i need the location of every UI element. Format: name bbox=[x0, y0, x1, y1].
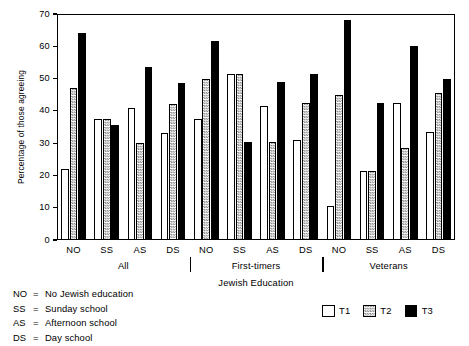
bar-t2-no-8 bbox=[335, 95, 343, 240]
x-axis-category-labels: NOSSASDSNOSSASDSNOSSASDS bbox=[57, 243, 455, 257]
footnote-code: DS bbox=[13, 331, 33, 346]
footnote-row: SS=Sunday school bbox=[13, 302, 223, 317]
y-axis-tick-label: 50 bbox=[39, 72, 49, 85]
y-axis-tick-label: 10 bbox=[39, 201, 49, 214]
bar-t2-ss-5 bbox=[236, 74, 244, 240]
legend-swatch-t1 bbox=[322, 305, 335, 318]
legend-item-t3: T3 bbox=[405, 304, 433, 318]
y-axis-tick-label: 20 bbox=[39, 169, 49, 182]
footnote-row: AS=Afternoon school bbox=[13, 316, 223, 331]
legend-label: T1 bbox=[339, 304, 350, 318]
bar-t2-ss-1 bbox=[103, 119, 111, 240]
bar-t3-as-10 bbox=[410, 46, 418, 240]
x-axis-group-labels: AllFirst-timersVeterans bbox=[57, 257, 455, 275]
bar-t3-as-2 bbox=[145, 67, 153, 240]
x-axis-group-label: Veterans bbox=[339, 259, 439, 273]
bar-t3-ds-11 bbox=[443, 79, 451, 240]
bar-t2-as-10 bbox=[401, 148, 409, 240]
bar-t1-as-2 bbox=[128, 108, 136, 240]
footnote-equals: = bbox=[33, 316, 45, 331]
bar-t1-ss-9 bbox=[360, 171, 368, 240]
legend-item-t2: T2 bbox=[363, 304, 391, 318]
bar-t3-no-8 bbox=[344, 20, 352, 240]
bar-t1-ds-3 bbox=[161, 133, 169, 240]
bar-t2-ds-11 bbox=[435, 93, 443, 240]
bar-t2-ds-7 bbox=[302, 103, 310, 240]
footnote-code: NO bbox=[13, 287, 33, 302]
bar-t2-ss-9 bbox=[368, 171, 376, 240]
footnote-code: AS bbox=[13, 316, 33, 331]
footnote-row: DS=Day school bbox=[13, 331, 223, 346]
legend-label: T3 bbox=[422, 304, 433, 318]
bar-t3-no-4 bbox=[211, 41, 219, 240]
bar-t2-ds-3 bbox=[169, 104, 177, 240]
legend-swatch-t2 bbox=[363, 305, 376, 318]
bar-t3-ss-5 bbox=[244, 142, 252, 240]
bar-t1-as-10 bbox=[393, 103, 401, 240]
bar-t1-ss-1 bbox=[94, 119, 102, 240]
x-axis-group-label: All bbox=[73, 259, 173, 273]
legend-item-t1: T1 bbox=[322, 304, 350, 318]
footnote-text: Sunday school bbox=[45, 302, 108, 317]
bar-t2-no-0 bbox=[70, 88, 78, 240]
y-axis-tick-label: 40 bbox=[39, 104, 49, 117]
y-axis-tick-label: 30 bbox=[39, 137, 49, 150]
legend-swatch-t3 bbox=[405, 305, 418, 318]
y-axis-tick-label: 60 bbox=[39, 40, 49, 53]
bar-t1-no-8 bbox=[327, 206, 335, 240]
footnote-text: Afternoon school bbox=[45, 316, 117, 331]
group-separator bbox=[190, 257, 191, 272]
bar-t2-as-2 bbox=[136, 143, 144, 240]
bar-t3-as-6 bbox=[277, 82, 285, 240]
bar-t1-no-0 bbox=[61, 169, 69, 240]
chart-legend: T1T2T3 bbox=[322, 303, 433, 319]
bar-t1-as-6 bbox=[260, 106, 268, 240]
footnotes-legend: NO=No Jewish educationSS=Sunday schoolAS… bbox=[13, 287, 223, 345]
footnote-text: No Jewish education bbox=[45, 287, 133, 302]
legend-label: T2 bbox=[380, 304, 391, 318]
y-axis-tick-label: 0 bbox=[44, 234, 49, 247]
bar-t1-ss-5 bbox=[227, 74, 235, 240]
bar-t3-no-0 bbox=[78, 33, 86, 240]
bar-t3-ds-3 bbox=[178, 83, 186, 240]
x-axis-group-label: First-timers bbox=[206, 259, 306, 273]
bar-t3-ss-1 bbox=[111, 125, 119, 240]
footnote-code: SS bbox=[13, 302, 33, 317]
bar-t2-no-4 bbox=[202, 79, 210, 240]
bar-t1-ds-11 bbox=[426, 132, 434, 240]
x-axis-category-label: DS bbox=[418, 243, 458, 257]
bar-t3-ss-9 bbox=[377, 103, 385, 240]
group-separator bbox=[322, 257, 323, 272]
bar-t1-ds-7 bbox=[293, 140, 301, 240]
bar-t2-as-6 bbox=[269, 142, 277, 240]
footnote-text: Day school bbox=[45, 331, 92, 346]
footnote-row: NO=No Jewish education bbox=[13, 287, 223, 302]
footnote-equals: = bbox=[33, 287, 45, 302]
bars-layer bbox=[57, 14, 455, 240]
footnote-equals: = bbox=[33, 302, 45, 317]
bar-t1-no-4 bbox=[194, 119, 202, 240]
bar-t3-ds-7 bbox=[310, 74, 318, 240]
y-axis-title: Percentage of those agreeing bbox=[14, 14, 28, 240]
footnote-equals: = bbox=[33, 331, 45, 346]
y-axis-tick-label: 70 bbox=[39, 8, 49, 21]
